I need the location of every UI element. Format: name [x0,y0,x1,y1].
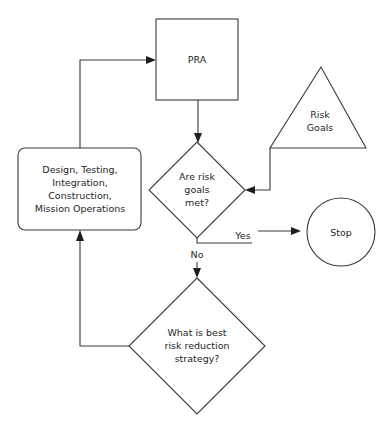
yes-label: Yes [234,230,250,241]
design-node: Design, Testing, Integration, Constructi… [18,148,141,230]
goals-met-line-1: Are risk [179,171,216,182]
arrow-left-icon [245,186,255,194]
design-line-2: Integration, [52,177,107,188]
edge-goals-met-to-stop: Yes [197,227,301,243]
connector-line [254,148,270,190]
edge-risk-goals-to-goals-met [245,148,270,194]
arrow-down-icon [193,268,201,278]
arrow-right-icon [291,227,301,235]
strategy-line-2: risk reduction [164,340,229,351]
arrow-right-icon [146,56,156,64]
flowchart-canvas: PRA Risk Goals Are risk goals met? Stop … [0,0,385,425]
risk-goals-node: Risk Goals [270,67,366,148]
design-line-1: Design, Testing, [42,164,117,175]
risk-goals-line-2: Goals [307,122,334,133]
design-box [18,148,141,230]
edge-strategy-to-design [76,230,129,346]
pra-label: PRA [188,54,207,65]
goals-met-line-3: met? [185,197,209,208]
design-line-4: Mission Operations [35,203,126,214]
edge-goals-met-to-strategy: No [191,249,204,278]
connector-line [80,60,147,148]
no-label: No [191,249,204,260]
arrow-up-icon [76,230,84,241]
stop-label: Stop [330,227,352,238]
arrow-down-icon [194,133,202,143]
risk-goals-triangle [270,67,366,148]
edge-pra-to-goals-met [194,100,202,143]
edge-design-to-pra [80,56,156,148]
design-line-3: Construction, [48,190,112,201]
strategy-decision-node: What is best risk reduction strategy? [129,278,265,414]
pra-node: PRA [156,19,238,100]
goals-met-line-2: goals [184,184,209,195]
goals-met-decision-node: Are risk goals met? [149,142,245,238]
connector-line [80,240,129,346]
risk-goals-line-1: Risk [310,109,330,120]
stop-node: Stop [307,198,375,266]
strategy-line-3: strategy? [175,353,220,364]
strategy-line-1: What is best [167,327,226,338]
